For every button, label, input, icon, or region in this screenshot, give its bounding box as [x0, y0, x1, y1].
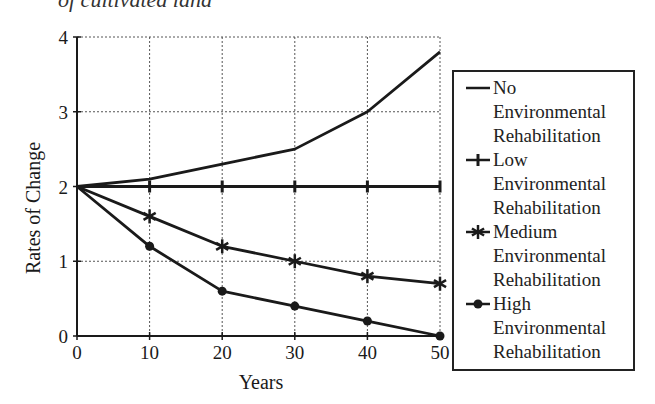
legend-label-line: Rehabilitation: [493, 196, 606, 220]
dot-marker: [474, 300, 483, 309]
legend-label-line: Environmental: [493, 100, 606, 124]
legend-label-line: Rehabilitation: [493, 268, 606, 292]
x-tick-label: 20: [213, 342, 232, 363]
dot-marker: [290, 302, 299, 311]
y-tick-label: 1: [59, 251, 69, 272]
axes: [73, 37, 440, 340]
legend-label: LowEnvironmentalRehabilitation: [493, 148, 606, 220]
legend-label-line: Rehabilitation: [493, 340, 606, 364]
y-axis-label: Rates of Change: [22, 142, 45, 274]
star-marker: [144, 209, 156, 223]
legend-label-line: Environmental: [493, 244, 606, 268]
series-medium: [77, 187, 446, 291]
legend-label-line: Rehabilitation: [493, 124, 606, 148]
y-tick-label: 4: [59, 27, 69, 48]
data-series: [77, 52, 446, 341]
x-tick-label: 50: [431, 342, 450, 363]
legend-symbol-star-icon: [464, 224, 492, 240]
legend-label: HighEnvironmentalRehabilitation: [493, 292, 606, 364]
legend-symbol-dot-icon: [464, 296, 492, 312]
legend-label-line: High: [493, 292, 606, 316]
legend-label-line: Low: [493, 148, 606, 172]
chart-legend: NoEnvironmentalRehabilitationLowEnvironm…: [452, 70, 635, 371]
y-tick-label: 0: [59, 326, 69, 347]
x-tick-label: 10: [140, 342, 159, 363]
legend-label: MediumEnvironmentalRehabilitation: [493, 220, 606, 292]
legend-label-line: Medium: [493, 220, 606, 244]
dot-marker: [436, 332, 445, 341]
x-tick-label: 0: [72, 342, 82, 363]
y-tick-label: 2: [59, 177, 69, 198]
dot-marker: [145, 242, 154, 251]
dot-marker: [363, 317, 372, 326]
legend-symbol-plus-icon: [464, 152, 492, 168]
legend-label-line: No: [493, 76, 606, 100]
series-line: [77, 52, 440, 187]
y-tick-label: 3: [59, 102, 69, 123]
legend-label-line: Environmental: [493, 316, 606, 340]
series-line: [77, 187, 440, 284]
tick-labels: 0102030405001234: [59, 27, 450, 363]
x-axis-label: Years: [239, 371, 284, 393]
legend-symbol-dash-icon: [464, 80, 492, 96]
dot-marker: [218, 287, 227, 296]
legend-label-line: Environmental: [493, 172, 606, 196]
x-tick-label: 30: [285, 342, 304, 363]
legend-label: NoEnvironmentalRehabilitation: [493, 76, 606, 148]
x-tick-label: 40: [358, 342, 377, 363]
series-no: [77, 52, 440, 187]
